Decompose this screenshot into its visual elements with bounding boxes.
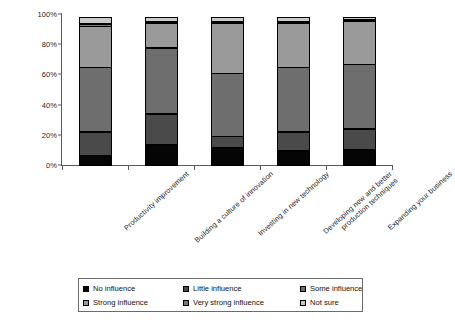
bar-segment[interactable] xyxy=(145,114,178,146)
bar-segment[interactable] xyxy=(211,148,244,166)
bar-segment[interactable] xyxy=(79,67,112,132)
bar-segment[interactable] xyxy=(211,23,244,74)
x-axis-category-label: Productivity improvement xyxy=(123,170,191,233)
legend-swatch-icon xyxy=(83,300,89,306)
bar-segment[interactable] xyxy=(277,67,310,132)
legend-swatch-icon xyxy=(183,286,189,292)
bar-segment[interactable] xyxy=(211,73,244,136)
y-axis-tick-mark xyxy=(58,104,62,105)
x-axis-tick-mark xyxy=(392,166,393,170)
x-axis-tick-mark xyxy=(260,166,261,170)
chart-legend: No influenceLittle influenceSome influen… xyxy=(78,278,363,312)
y-axis-tick-mark xyxy=(58,14,62,15)
plot-area: 0%20%40%60%80%100% xyxy=(62,14,392,165)
legend-item[interactable]: Strong influence xyxy=(83,299,183,307)
bar-segment[interactable] xyxy=(277,151,310,166)
x-axis-tick-mark xyxy=(326,166,327,170)
x-axis-category-labels: Productivity improvementBuilding a cultu… xyxy=(0,166,413,271)
y-axis-tick-mark xyxy=(58,44,62,45)
bar-column[interactable] xyxy=(79,14,112,165)
bar-segment[interactable] xyxy=(145,48,178,114)
legend-swatch-icon xyxy=(183,300,189,306)
bar-segment[interactable] xyxy=(79,132,112,156)
bar-segment[interactable] xyxy=(343,21,376,65)
legend-item-label: No influence xyxy=(93,285,135,293)
x-axis-tick-mark xyxy=(62,166,63,170)
legend-item[interactable]: No influence xyxy=(83,285,183,293)
y-axis-tick-mark xyxy=(58,134,62,135)
x-axis-tick-mark xyxy=(128,166,129,170)
legend-swatch-icon xyxy=(83,286,89,292)
bar-segment[interactable] xyxy=(79,155,112,166)
legend-item-label: Strong influence xyxy=(93,299,148,307)
bar-segment[interactable] xyxy=(343,129,376,150)
bar-segment[interactable] xyxy=(145,145,178,166)
bar-segment[interactable] xyxy=(79,26,112,68)
bar-segment[interactable] xyxy=(277,23,310,68)
x-axis-category-label: Developing new and better production tec… xyxy=(322,170,400,243)
legend-item[interactable]: Very strong influence xyxy=(183,299,300,307)
bar-segment[interactable] xyxy=(343,149,376,166)
legend-item-label: Some influence xyxy=(310,285,362,293)
legend-swatch-icon xyxy=(300,300,306,306)
legend-item[interactable]: Some influence xyxy=(300,285,362,293)
legend-item-label: Not sure xyxy=(310,299,339,307)
bar-column[interactable] xyxy=(211,14,244,165)
bar-column[interactable] xyxy=(343,14,376,165)
legend-item-label: Little influence xyxy=(193,285,242,293)
bar-column[interactable] xyxy=(277,14,310,165)
bar-segment[interactable] xyxy=(343,64,376,129)
bar-segment[interactable] xyxy=(145,23,178,49)
bar-segment[interactable] xyxy=(277,132,310,152)
x-axis-tick-mark xyxy=(194,166,195,170)
bar-column[interactable] xyxy=(145,14,178,165)
bar-segment[interactable] xyxy=(211,136,244,148)
y-axis-tick-mark xyxy=(58,74,62,75)
legend-item[interactable]: Not sure xyxy=(300,299,362,307)
legend-swatch-icon xyxy=(300,286,306,292)
legend-item-label: Very strong influence xyxy=(193,299,264,307)
legend-item[interactable]: Little influence xyxy=(183,285,300,293)
